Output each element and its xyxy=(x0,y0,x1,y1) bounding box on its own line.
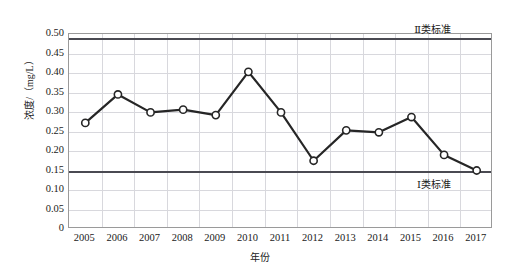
data-point-marker xyxy=(310,157,317,164)
data-point-marker xyxy=(440,151,447,158)
data-point-marker xyxy=(473,167,480,174)
y-tick-label: 0.40 xyxy=(24,67,64,77)
data-point-marker xyxy=(408,113,415,120)
data-point-marker xyxy=(375,129,382,136)
y-axis-tick-labels: 0.500.450.400.350.300.250.200.150.100.05… xyxy=(24,0,64,270)
data-point-marker xyxy=(114,91,121,98)
plot-area: Ⅱ类标准Ⅰ类标准 xyxy=(68,33,492,228)
x-axis-title: 年份 xyxy=(0,249,520,264)
y-tick-label: 0.20 xyxy=(24,145,64,155)
y-tick-label: 0.05 xyxy=(24,204,64,214)
data-point-marker xyxy=(245,68,252,75)
y-tick-label: 0.25 xyxy=(24,126,64,136)
data-point-marker xyxy=(180,106,187,113)
x-axis-tick-labels: 2005200620072008200920102011201220132014… xyxy=(0,232,520,248)
data-point-marker xyxy=(277,109,284,116)
series-polyline xyxy=(85,72,476,171)
y-tick-label: 0.30 xyxy=(24,106,64,116)
x-tick-label: 2017 xyxy=(453,232,499,243)
data-point-marker xyxy=(343,127,350,134)
data-point-marker xyxy=(212,112,219,119)
concentration-line-chart: 浓度/（mg/L） 0.500.450.400.350.300.250.200.… xyxy=(0,0,520,270)
y-tick-label: 0.10 xyxy=(24,184,64,194)
y-tick-label: 0.15 xyxy=(24,165,64,175)
y-tick-label: 0.35 xyxy=(24,87,64,97)
data-series-line xyxy=(69,34,493,229)
data-point-marker xyxy=(147,109,154,116)
y-tick-label: 0.50 xyxy=(24,28,64,38)
data-point-marker xyxy=(82,119,89,126)
y-tick-label: 0.45 xyxy=(24,48,64,58)
